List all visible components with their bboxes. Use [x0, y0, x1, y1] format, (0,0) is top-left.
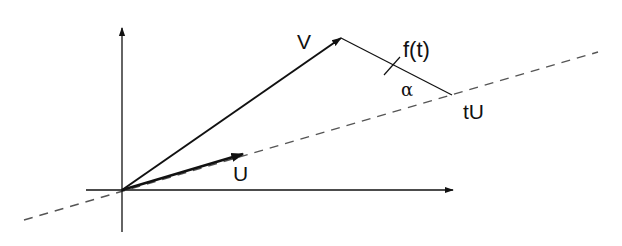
label-u: U — [233, 162, 248, 185]
tick-mark-f — [384, 57, 400, 75]
label-f: f(t) — [403, 37, 430, 62]
label-tu: tU — [463, 100, 484, 123]
vector-v — [122, 38, 341, 190]
vector-projection-diagram: V U tU f(t) α — [0, 0, 622, 246]
vector-u — [122, 154, 243, 190]
segment-f — [341, 38, 452, 95]
label-v: V — [297, 30, 311, 53]
label-alpha: α — [401, 79, 413, 100]
line-through-u — [24, 52, 598, 220]
